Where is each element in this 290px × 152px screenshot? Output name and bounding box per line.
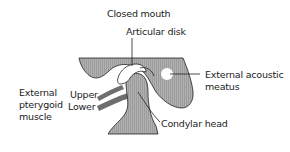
- external-acoustic-meatus-label-2: meatus: [205, 81, 239, 92]
- lower-label: Lower: [68, 101, 95, 112]
- upper-label: Upper: [70, 89, 98, 100]
- title-label: Closed mouth: [107, 8, 170, 19]
- external-acoustic-meatus-label-1: External acoustic: [205, 69, 283, 80]
- condylar-head-label: Condylar head: [161, 118, 228, 129]
- articular-disk-label: Articular disk: [126, 26, 186, 37]
- external-pterygoid-label-3: muscle: [19, 111, 52, 122]
- external-pterygoid-label-1: External: [19, 87, 57, 98]
- tmj-diagram: Closed mouth Articular disk External aco…: [0, 0, 290, 152]
- external-pterygoid-label-2: pterygoid: [19, 99, 63, 110]
